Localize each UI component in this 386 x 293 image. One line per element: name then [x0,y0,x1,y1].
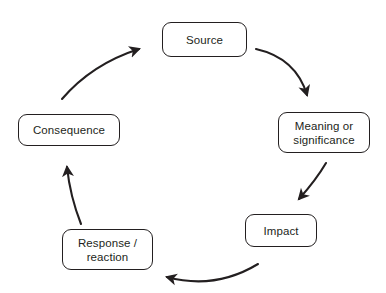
node-meaning-label: Meaning or significance [289,119,358,147]
node-response: Response / reaction [62,229,153,270]
node-meaning: Meaning or significance [278,112,370,153]
arrow-impact-to-response [167,264,258,281]
arrow-response-to-consequence [67,167,81,224]
node-consequence: Consequence [18,114,120,146]
node-source: Source [162,22,247,57]
node-impact: Impact [245,214,317,247]
diagram-canvas: Source Meaning or significance Impact Re… [0,0,386,293]
arrow-consequence-to-source [62,49,139,99]
node-impact-label: Impact [259,224,302,238]
arrow-meaning-to-impact [299,163,326,199]
arrow-source-to-meaning [256,49,307,95]
node-response-label: Response / reaction [74,236,141,264]
node-source-label: Source [182,33,227,47]
node-consequence-label: Consequence [29,123,109,137]
